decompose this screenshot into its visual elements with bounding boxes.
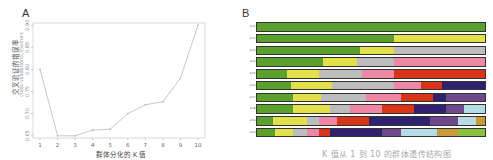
ancestry-segment-navy bbox=[330, 129, 382, 137]
row-label: K=5 bbox=[250, 72, 255, 75]
ancestry-segment-purple bbox=[382, 129, 400, 137]
row-label: K=10 bbox=[250, 131, 255, 134]
ancestry-segment-red bbox=[401, 94, 433, 102]
ancestry-segment-pink bbox=[394, 58, 485, 66]
y-axis-label-en: cross-validation(CV)errors bbox=[18, 32, 24, 97]
ancestry-segment-gray bbox=[332, 82, 394, 90]
data-point bbox=[197, 24, 199, 26]
ancestry-segment-yellow bbox=[291, 82, 332, 90]
x-axis-label: 群体分化的 K 值 bbox=[96, 149, 146, 159]
row-label: K=1 bbox=[250, 25, 255, 28]
y-tick-label: 0.65 bbox=[24, 130, 30, 141]
admixture-structure-plot: K=1K=2K=3K=4K=5K=6K=7K=8K=9K=10 bbox=[250, 18, 490, 143]
ancestry-segment-pink bbox=[350, 105, 382, 113]
x-tick-label: 10 bbox=[194, 142, 201, 148]
row-label: K=3 bbox=[250, 49, 255, 52]
ancestry-segment-gray bbox=[293, 129, 307, 137]
y-tick-label: 0.85 bbox=[24, 42, 30, 53]
admixture-bar-row bbox=[256, 69, 486, 79]
ancestry-segment-navy bbox=[414, 105, 446, 113]
cv-error-line bbox=[40, 25, 198, 136]
x-tick-label: 4 bbox=[91, 142, 95, 148]
admixture-bar-row bbox=[256, 81, 486, 91]
data-point bbox=[39, 69, 41, 71]
data-point bbox=[92, 129, 94, 131]
row-label: K=4 bbox=[250, 60, 255, 63]
row-label: K=7 bbox=[250, 96, 255, 99]
ancestry-segment-red bbox=[394, 70, 485, 78]
ancestry-segment-lightblue bbox=[458, 117, 476, 125]
ancestry-segment-yellow bbox=[394, 35, 485, 43]
row-label: K=9 bbox=[250, 119, 255, 122]
ancestry-segment-navy bbox=[369, 117, 431, 125]
x-tick-label: 6 bbox=[126, 142, 130, 148]
ancestry-segment-green bbox=[257, 129, 275, 137]
x-tick-label: 1 bbox=[38, 142, 42, 148]
data-point bbox=[180, 77, 182, 79]
admixture-bar-row bbox=[256, 57, 486, 67]
y-tick-label: 0.90 bbox=[24, 20, 30, 31]
data-point bbox=[144, 104, 146, 106]
ancestry-segment-yellow bbox=[293, 105, 329, 113]
ancestry-segment-pink bbox=[319, 117, 337, 125]
ancestry-segment-red bbox=[319, 129, 330, 137]
x-tick-label: 9 bbox=[179, 142, 183, 148]
ancestry-segment-pink bbox=[366, 94, 400, 102]
ancestry-segment-gray bbox=[357, 58, 393, 66]
ancestry-segment-navy bbox=[442, 82, 485, 90]
ancestry-segment-gray bbox=[307, 117, 318, 125]
panel-b-label: B bbox=[242, 7, 249, 19]
x-tick-label: 3 bbox=[73, 142, 77, 148]
ancestry-segment-red bbox=[421, 82, 442, 90]
ancestry-segment-red bbox=[337, 117, 369, 125]
ancestry-segment-yellow bbox=[323, 58, 357, 66]
cv-error-line-chart: 0.650.700.750.800.850.9012345678910 bbox=[0, 0, 240, 160]
admixture-bar-row bbox=[256, 104, 486, 114]
ancestry-segment-green bbox=[257, 58, 323, 66]
ancestry-segment-pink bbox=[394, 82, 421, 90]
row-label: K=6 bbox=[250, 84, 255, 87]
data-point bbox=[74, 135, 76, 137]
ancestry-segment-green bbox=[257, 105, 293, 113]
admixture-bar-row bbox=[256, 22, 486, 32]
ancestry-segment-gray bbox=[319, 70, 362, 78]
figure-caption: K 值从 1 到 10 的群体遗传结构图 bbox=[322, 148, 451, 159]
x-tick-label: 8 bbox=[161, 142, 165, 148]
admixture-bar-row bbox=[256, 93, 486, 103]
ancestry-segment-green bbox=[257, 117, 273, 125]
x-tick-label: 5 bbox=[108, 142, 112, 148]
ancestry-segment-yellow bbox=[287, 70, 319, 78]
ancestry-segment-gray bbox=[394, 47, 485, 55]
ancestry-segment-green bbox=[257, 94, 293, 102]
ancestry-segment-tan bbox=[476, 117, 485, 125]
ancestry-segment-purple bbox=[446, 94, 485, 102]
ancestry-segment-yellow bbox=[275, 129, 293, 137]
x-tick-label: 7 bbox=[144, 142, 148, 148]
admixture-bar-row bbox=[256, 116, 486, 126]
ancestry-segment-green bbox=[257, 82, 291, 90]
ancestry-segment-gray bbox=[330, 105, 351, 113]
y-tick-label: 0.75 bbox=[24, 86, 30, 97]
ancestry-segment-purple bbox=[446, 105, 464, 113]
ancestry-segment-lightblue bbox=[464, 105, 485, 113]
data-point bbox=[162, 101, 164, 103]
ancestry-segment-navy bbox=[433, 94, 447, 102]
row-label: K=2 bbox=[250, 37, 255, 40]
ancestry-segment-lime bbox=[458, 129, 485, 137]
ancestry-segment-green bbox=[257, 35, 394, 43]
y-tick-label: 0.70 bbox=[24, 108, 30, 119]
admixture-bar-row bbox=[256, 46, 486, 56]
y-tick-label: 0.80 bbox=[24, 64, 30, 75]
ancestry-segment-green bbox=[257, 70, 287, 78]
ancestry-segment-pink bbox=[362, 70, 394, 78]
row-label: K=8 bbox=[250, 107, 255, 110]
ancestry-segment-pink bbox=[307, 129, 318, 137]
ancestry-segment-red bbox=[382, 105, 414, 113]
admixture-bar-row bbox=[256, 34, 486, 44]
ancestry-segment-yellow bbox=[360, 47, 394, 55]
ancestry-segment-lightblue bbox=[401, 129, 437, 137]
ancestry-segment-tan bbox=[437, 129, 458, 137]
ancestry-segment-yellow bbox=[273, 117, 307, 125]
data-point bbox=[127, 113, 129, 115]
data-point bbox=[57, 135, 59, 137]
